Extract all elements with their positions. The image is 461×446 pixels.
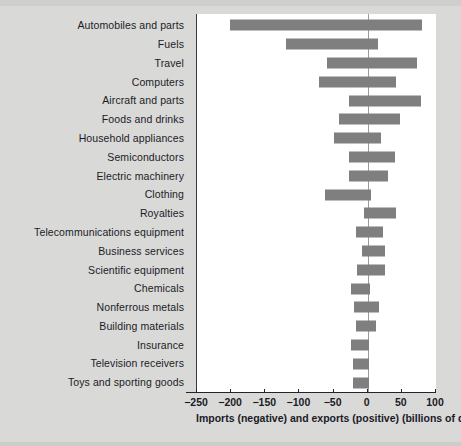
chart-figure: Automobiles and partsFuelsTravelComputer… — [0, 0, 461, 446]
bar — [356, 321, 376, 332]
category-label: Household appliances — [0, 129, 190, 148]
x-axis-tick — [264, 389, 265, 393]
x-axis-title: Imports (negative) and exports (positive… — [196, 412, 461, 424]
bar-row — [197, 166, 436, 185]
category-label: Semiconductors — [0, 148, 190, 167]
bar — [286, 39, 378, 50]
bar-row — [197, 185, 436, 204]
x-axis-tick-label: −100 — [287, 396, 311, 408]
x-axis-tick-label: −150 — [252, 396, 276, 408]
category-label: Automobiles and parts — [0, 16, 190, 35]
category-label: Computers — [0, 72, 190, 91]
bar-row — [197, 35, 436, 54]
bar — [325, 189, 371, 200]
x-axis-tick — [435, 389, 436, 393]
bar — [353, 358, 369, 369]
bar — [354, 302, 379, 313]
x-axis-tick — [230, 389, 231, 393]
x-axis-tick — [298, 389, 299, 393]
category-label: Scientific equipment — [0, 260, 190, 279]
x-axis-tick-label: 0 — [364, 396, 370, 408]
bar — [351, 339, 369, 350]
category-label: Aircraft and parts — [0, 91, 190, 110]
category-label: Building materials — [0, 317, 190, 336]
bar-row — [197, 298, 436, 317]
bar-row — [197, 16, 436, 35]
category-label: Foods and drinks — [0, 110, 190, 129]
category-label: Insurance — [0, 336, 190, 355]
bar-row — [197, 260, 436, 279]
plot-area — [196, 14, 436, 392]
category-label: Electric machinery — [0, 166, 190, 185]
x-axis-tick-label: 50 — [395, 396, 407, 408]
bar — [356, 227, 383, 238]
x-axis-tick — [333, 389, 334, 393]
bar — [357, 264, 384, 275]
page-edge-bottom — [0, 442, 461, 446]
x-axis-tick — [367, 389, 368, 393]
bar — [319, 76, 397, 87]
category-label-column: Automobiles and partsFuelsTravelComputer… — [0, 16, 190, 392]
category-label: Fuels — [0, 35, 190, 54]
bar — [349, 151, 395, 162]
bar — [351, 283, 371, 294]
bar — [230, 20, 423, 31]
category-label: Chemicals — [0, 279, 190, 298]
category-label: Nonferrous metals — [0, 298, 190, 317]
bar-row — [197, 91, 436, 110]
bar — [364, 208, 396, 219]
bar-row — [197, 242, 436, 261]
bar-row — [197, 72, 436, 91]
bar-row — [197, 317, 436, 336]
page-edge-top — [0, 0, 461, 6]
bar-row — [197, 354, 436, 373]
x-axis-tick-label: −50 — [324, 396, 342, 408]
category-label: Business services — [0, 242, 190, 261]
bar-row — [197, 204, 436, 223]
bar-row — [197, 110, 436, 129]
bar-row — [197, 336, 436, 355]
bar — [334, 133, 382, 144]
category-label: Television receivers — [0, 354, 190, 373]
bar — [349, 95, 421, 106]
bar-rows — [197, 16, 436, 392]
bar-row — [197, 148, 436, 167]
bar-row — [197, 223, 436, 242]
x-axis-tick — [401, 389, 402, 393]
x-axis-line — [196, 392, 435, 393]
x-axis-tick — [196, 389, 197, 393]
x-axis-tick-label: 100 — [426, 396, 444, 408]
bar-row — [197, 129, 436, 148]
category-label: Royalties — [0, 204, 190, 223]
bar — [349, 170, 389, 181]
bar-row — [197, 279, 436, 298]
category-label: Clothing — [0, 185, 190, 204]
x-axis-tick-label: −250 — [184, 396, 208, 408]
bar — [327, 57, 417, 68]
bar-row — [197, 54, 436, 73]
bar — [339, 114, 400, 125]
category-label: Travel — [0, 54, 190, 73]
x-axis-tick-label: −200 — [218, 396, 242, 408]
category-label: Telecommunications equipment — [0, 223, 190, 242]
bar — [353, 377, 369, 388]
category-label: Toys and sporting goods — [0, 373, 190, 392]
bar — [362, 245, 385, 256]
